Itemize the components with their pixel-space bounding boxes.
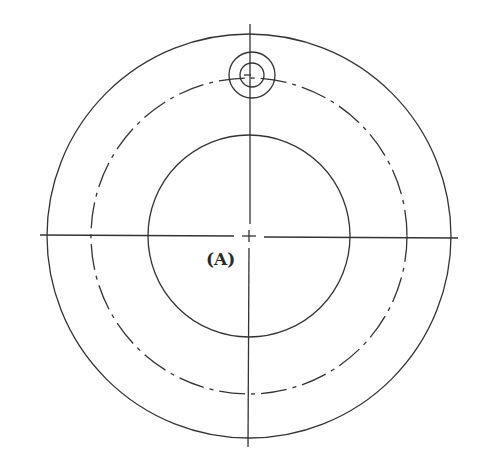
horizontal-centerline-left: [40, 235, 234, 236]
vertical-centerline-bottom: [248, 248, 249, 447]
hole-outer-circle: [229, 52, 275, 98]
hole-inner-circle: [240, 63, 264, 87]
technical-drawing: [0, 0, 481, 469]
center-label: (A): [206, 251, 235, 268]
horizontal-centerline-right: [264, 237, 458, 238]
